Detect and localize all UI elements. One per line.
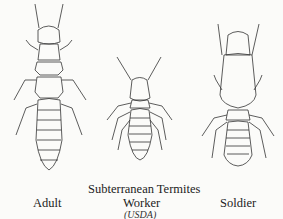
caste-label-adult: Adult bbox=[33, 196, 61, 211]
worker-termite-drawing bbox=[107, 57, 172, 160]
adult-termite-drawing bbox=[14, 4, 86, 170]
caste-label-soldier: Soldier bbox=[220, 196, 256, 211]
soldier-termite-drawing bbox=[202, 24, 274, 166]
figure-title: Subterranean Termites bbox=[88, 182, 200, 197]
figure-credit: (USDA) bbox=[124, 209, 156, 219]
